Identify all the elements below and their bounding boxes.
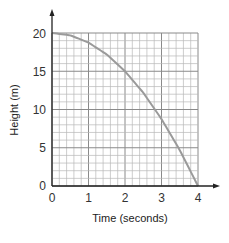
y-axis-title: Height (m) [8,84,20,135]
x-tick-label: 3 [158,191,165,205]
x-tick-label: 4 [195,191,202,205]
axes [50,9,221,189]
y-tick-label: 0 [39,179,46,193]
y-tick-label: 20 [33,27,47,41]
x-tick-label: 2 [122,191,129,205]
chart: 0 1 2 3 4 0 5 10 15 20 Time (seconds) He… [0,0,229,243]
x-axis-title: Time (seconds) [92,212,167,224]
y-tick-label: 15 [33,65,47,79]
y-axis-arrow-icon [50,9,55,16]
x-tick-label: 0 [49,191,56,205]
x-tick-label: 1 [85,191,92,205]
grid [52,33,198,186]
x-axis-arrow-icon [213,184,220,189]
y-tick-label: 10 [33,103,47,117]
y-tick-label: 5 [39,141,46,155]
